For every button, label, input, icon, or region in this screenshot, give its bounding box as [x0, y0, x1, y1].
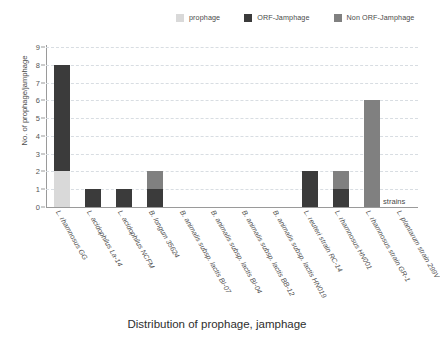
bar-segment[interactable]: [54, 171, 70, 207]
x-tick-label: L. rhamnosus GG: [54, 209, 88, 261]
bar-segment[interactable]: [54, 65, 70, 172]
y-tick-mark: [41, 171, 45, 172]
y-tick-label: 3: [0, 149, 40, 158]
bar-segment[interactable]: [333, 189, 349, 207]
bar-group[interactable]: [147, 171, 163, 207]
y-tick-mark: [41, 207, 45, 208]
y-tick-label: 2: [0, 167, 40, 176]
bar-segment[interactable]: [147, 171, 163, 189]
x-axis-spine: [46, 207, 418, 208]
legend-label: prophage: [189, 13, 220, 22]
legend-swatch-icon: [176, 14, 184, 22]
legend-label: Non ORF-Jamphage: [347, 13, 415, 22]
legend-entry-non-orf-jamphage: Non ORF-Jamphage: [334, 13, 415, 22]
y-tick-label: 1: [0, 185, 40, 194]
y-tick-mark: [41, 189, 45, 190]
y-tick-mark: [41, 47, 45, 48]
y-tick-mark: [41, 64, 45, 65]
plot-area: [46, 47, 418, 207]
bar-group[interactable]: [302, 171, 318, 207]
chart-legend: prophageORF-JamphageNon ORF-Jamphage: [176, 13, 414, 22]
x-axis-tick-labels: L. rhamnosus GGL. acidophilus La-14L. ac…: [46, 209, 418, 309]
y-tick-mark: [41, 100, 45, 101]
chart-caption: Distribution of prophage, jamphage: [0, 318, 434, 330]
bar-segment[interactable]: [302, 171, 318, 207]
y-tick-label: 6: [0, 96, 40, 105]
legend-swatch-icon: [244, 14, 252, 22]
bar-group[interactable]: [85, 189, 101, 207]
bar-segment[interactable]: [116, 189, 132, 207]
x-tick-label: B. animalis subsp. lactis BB-12: [240, 209, 295, 297]
legend-label: ORF-Jamphage: [257, 13, 309, 22]
x-tick-label: B. animalis subsp. lactis HN019: [271, 209, 327, 299]
y-tick-label: 9: [0, 43, 40, 52]
y-tick-label: 7: [0, 78, 40, 87]
y-tick-label: 5: [0, 114, 40, 123]
x-tick-label: L. acidophilus La-14: [85, 209, 123, 268]
y-tick-label: 8: [0, 60, 40, 69]
x-tick-label: B. longum 35624: [147, 209, 180, 259]
bar-group[interactable]: [364, 100, 380, 207]
y-tick-mark: [41, 135, 45, 136]
y-tick-mark: [41, 153, 45, 154]
bar-segment[interactable]: [333, 171, 349, 189]
y-tick-label: 4: [0, 131, 40, 140]
bar-group[interactable]: [54, 65, 70, 207]
legend-entry-orf-jamphage: ORF-Jamphage: [244, 13, 309, 22]
bar-series-container: [46, 47, 418, 207]
y-tick-mark: [41, 82, 45, 83]
y-tick-label: 0: [0, 203, 40, 212]
legend-entry-prophage: prophage: [176, 13, 220, 22]
bar-group[interactable]: [116, 189, 132, 207]
bar-segment[interactable]: [364, 100, 380, 207]
bar-segment[interactable]: [85, 189, 101, 207]
bar-group[interactable]: [333, 171, 349, 207]
legend-swatch-icon: [334, 14, 342, 22]
bar-segment[interactable]: [147, 189, 163, 207]
y-tick-mark: [41, 118, 45, 119]
